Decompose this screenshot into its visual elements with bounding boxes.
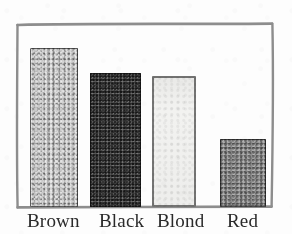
bar-red [220, 139, 266, 207]
bar-black-outline [90, 73, 141, 207]
bar-red-outline [220, 139, 266, 207]
category-label-blond: Blond [157, 208, 204, 233]
plot-area [0, 0, 292, 234]
bar-brown-outline [30, 48, 78, 207]
bar-black [90, 73, 141, 207]
category-axis-labels: Brown Black Blond Red [0, 208, 292, 234]
bar-brown [30, 48, 78, 207]
bar-blond [152, 76, 196, 207]
category-label-black: Black [99, 208, 144, 233]
category-label-red: Red [227, 208, 258, 233]
category-label-brown: Brown [27, 208, 80, 233]
bar-chart-figure: Brown Black Blond Red [0, 0, 292, 234]
bar-blond-outline [152, 76, 196, 207]
